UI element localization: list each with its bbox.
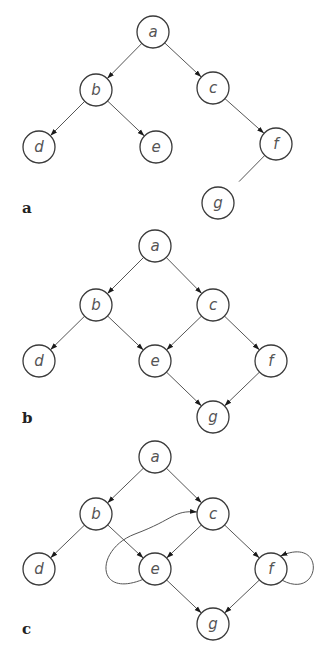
node-b-g: g xyxy=(197,401,229,433)
node-a-e: e xyxy=(140,131,172,163)
node-b-b: b xyxy=(80,289,112,321)
node-b-a: a xyxy=(139,230,171,262)
edge-b-f-g xyxy=(225,372,260,406)
node-a-f: f xyxy=(260,128,292,160)
edge-b-b-d xyxy=(50,316,84,350)
node-a-g: g xyxy=(202,187,234,219)
graph-figure: abcdefgabcdefgabcdefg a b c xyxy=(0,0,335,659)
edge-a-a-b xyxy=(107,43,142,78)
node-label: b xyxy=(91,296,101,314)
edge-a-f-g xyxy=(239,155,265,181)
node-c-e: e xyxy=(139,553,171,585)
node-a-a: a xyxy=(137,16,169,48)
edge-c-c-e xyxy=(167,525,202,558)
node-a-b: b xyxy=(80,74,112,106)
node-c-g: g xyxy=(197,608,229,640)
node-c-b: b xyxy=(80,498,112,530)
node-label: a xyxy=(148,23,157,41)
panel-label-a: a xyxy=(22,199,32,217)
node-label: d xyxy=(34,560,44,578)
node-a-c: c xyxy=(197,72,229,104)
node-c-c: c xyxy=(197,498,229,530)
edge-c-e-g xyxy=(167,580,202,613)
node-label: a xyxy=(150,237,159,255)
panel-label-b: b xyxy=(22,409,33,427)
edge-a-b-d xyxy=(50,101,84,135)
node-c-d: d xyxy=(23,553,55,585)
node-c-f: f xyxy=(255,553,287,585)
node-label: c xyxy=(209,79,218,97)
edge-c-a-b xyxy=(108,468,144,503)
node-label: c xyxy=(209,505,218,523)
node-label: c xyxy=(209,296,218,314)
node-c-a: a xyxy=(139,441,171,473)
edge-c-b-e xyxy=(108,525,144,558)
edge-a-c-f xyxy=(225,99,264,134)
node-label: g xyxy=(208,615,218,633)
node-label: e xyxy=(151,138,160,156)
node-label: a xyxy=(150,448,159,466)
edge-b-b-e xyxy=(108,316,144,350)
node-b-f: f xyxy=(255,345,287,377)
node-label: d xyxy=(34,138,44,156)
node-b-c: c xyxy=(197,289,229,321)
edge-b-a-b xyxy=(107,257,143,293)
node-label: g xyxy=(213,194,223,212)
node-label: b xyxy=(91,505,101,523)
edge-c-a-c xyxy=(166,468,201,503)
node-b-e: e xyxy=(139,345,171,377)
edge-b-c-e xyxy=(167,316,202,350)
node-label: b xyxy=(91,81,101,99)
edge-c-f-g xyxy=(225,580,260,613)
edge-b-e-g xyxy=(167,372,202,406)
edge-c-c-f xyxy=(225,525,260,558)
node-a-d: d xyxy=(23,131,55,163)
edge-c-b-d xyxy=(51,525,85,558)
node-label: e xyxy=(150,560,159,578)
nodes-layer: abcdefgabcdefgabcdefg xyxy=(23,16,292,640)
edge-b-c-f xyxy=(225,316,260,350)
node-b-d: d xyxy=(23,345,55,377)
panel-label-c: c xyxy=(22,620,31,638)
edge-a-a-c xyxy=(165,43,202,77)
edge-b-a-c xyxy=(166,257,202,293)
edge-a-b-e xyxy=(108,101,145,136)
node-label: d xyxy=(34,352,44,370)
node-label: g xyxy=(208,408,218,426)
node-label: e xyxy=(150,352,159,370)
